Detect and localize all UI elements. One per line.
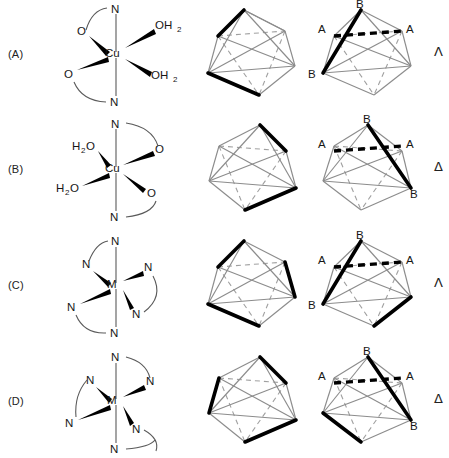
vertex-label-bottom: B xyxy=(410,420,418,432)
vertex-label-right: A xyxy=(406,254,414,266)
vertex-label-bottom: B xyxy=(308,68,316,80)
row-label-a: (A) xyxy=(8,48,23,60)
labelled-octahedron-a: B A A B xyxy=(306,0,421,115)
aqua-subscript: 2 xyxy=(173,75,178,84)
vertex-label-top: B xyxy=(356,0,364,10)
atom-label: N xyxy=(110,96,118,108)
vertex-label-bottom: B xyxy=(410,188,418,200)
octahedron-edges xyxy=(208,10,295,95)
structural-formula-d: N N N N N N M xyxy=(34,347,199,458)
figure-row-d: (D) N N N N N xyxy=(0,347,449,458)
octahedron-bold-edges xyxy=(208,10,259,95)
aqua-tail-label: O xyxy=(86,140,95,152)
vertex-label-top: B xyxy=(363,115,371,125)
atom-label: N xyxy=(132,423,140,435)
vertex-label-left: A xyxy=(318,138,326,150)
structural-formula-a: N O O N Cu OH 2 xyxy=(34,0,199,115)
atom-label: N xyxy=(111,235,119,247)
octahedron-edges xyxy=(208,241,295,326)
chirality-symbol-a: Λ xyxy=(434,44,443,59)
octahedron-bold-edges xyxy=(334,125,411,188)
atom-label: O xyxy=(77,25,86,37)
octahedron-edges xyxy=(209,357,296,442)
chirality-symbol-c: Λ xyxy=(434,275,443,290)
vertex-label-right: A xyxy=(406,23,414,35)
figure-row-a: (A) N O O N xyxy=(0,0,449,115)
octahedron-bold-edges xyxy=(323,10,402,73)
octahedron-edges xyxy=(209,125,296,210)
atom-label: N xyxy=(110,211,118,223)
atom-label: N xyxy=(110,443,118,455)
labelled-octahedron-d: B A A B xyxy=(306,347,421,458)
chirality-symbol-d: Δ xyxy=(434,391,443,406)
chirality-symbol-b: Δ xyxy=(434,159,443,174)
metal-label: Cu xyxy=(105,47,120,59)
atom-label: N xyxy=(144,261,152,273)
vertex-label-top: B xyxy=(363,347,371,357)
octahedron-bold-edges xyxy=(323,241,411,326)
aqua-ligand-label: H xyxy=(56,182,64,194)
labelled-octahedron-c: B A A B xyxy=(306,231,421,346)
atom-label: O xyxy=(155,143,164,155)
octahedron-bold-edges xyxy=(323,357,411,442)
structural-formula-c: N N N N N N M xyxy=(34,231,199,346)
atom-label: N xyxy=(111,351,119,363)
octahedron-c xyxy=(196,231,308,346)
atom-label: N xyxy=(86,374,94,386)
row-label-b: (B) xyxy=(8,163,23,175)
vertex-label-top: B xyxy=(356,231,364,241)
row-label-d: (D) xyxy=(8,395,24,407)
row-label-c: (C) xyxy=(8,279,24,291)
metal-label: M xyxy=(107,278,117,290)
vertex-label-left: A xyxy=(318,23,326,35)
octahedron-b xyxy=(196,115,308,230)
aqua-ligand-label: OH xyxy=(151,69,168,81)
atom-label: N xyxy=(111,118,119,130)
octahedron-bold-edges xyxy=(245,125,296,210)
aqua-ligand-label: H xyxy=(72,140,80,152)
vertex-label-bottom: B xyxy=(308,299,316,311)
aqua-tail-label: O xyxy=(70,182,79,194)
aqua-ligand-label: OH xyxy=(155,19,172,31)
atom-label: N xyxy=(111,3,119,15)
aqua-subscript: 2 xyxy=(177,25,182,34)
atom-label: O xyxy=(147,187,156,199)
octahedron-a xyxy=(196,0,308,115)
labelled-octahedron-b: B A A B xyxy=(306,115,421,230)
vertex-label-left: A xyxy=(318,370,326,382)
vertex-label-right: A xyxy=(406,138,414,150)
metal-label: M xyxy=(107,394,117,406)
atom-label: O xyxy=(64,68,73,80)
vertex-label-right: A xyxy=(406,370,414,382)
figure-row-c: (C) N N N N N xyxy=(0,231,449,346)
vertex-label-left: A xyxy=(318,254,326,266)
atom-label: N xyxy=(132,308,140,320)
atom-label: N xyxy=(65,417,73,429)
figure-row-b: (B) N O O N Cu H 2 O xyxy=(0,115,449,230)
stereochemistry-figure: (A) N O O N xyxy=(0,0,449,458)
structural-formula-b: N O O N Cu H 2 O H 2 O xyxy=(34,115,199,230)
octahedron-d xyxy=(196,347,308,458)
atom-label: N xyxy=(110,327,118,339)
atom-label: N xyxy=(67,301,75,313)
